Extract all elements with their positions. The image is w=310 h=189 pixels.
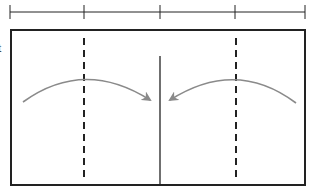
left-arc-arrow <box>23 79 150 102</box>
right-arc-arrow <box>170 80 296 103</box>
fold-diagram <box>0 0 310 189</box>
ruler <box>10 5 305 19</box>
outer-frame <box>11 30 305 185</box>
